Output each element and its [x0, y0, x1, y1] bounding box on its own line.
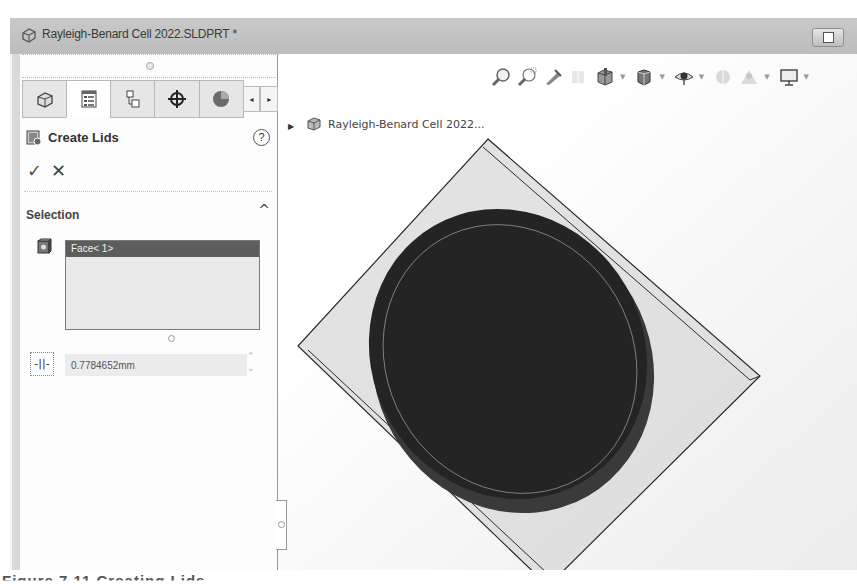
- property-manager-title: Create Lids: [48, 130, 119, 145]
- tab-dimxpert-manager[interactable]: [154, 80, 199, 118]
- divider: [24, 191, 272, 192]
- property-list-icon: [79, 89, 99, 109]
- tab-display-manager[interactable]: [199, 80, 244, 118]
- configuration-icon: [123, 89, 143, 109]
- part-icon: [20, 26, 38, 44]
- face-selection-icon: [37, 238, 52, 255]
- collapse-chevron-icon[interactable]: ^: [258, 202, 270, 218]
- property-manager-header: Create Lids ?: [26, 128, 276, 152]
- window-title: Rayleigh-Benard Cell 2022.SLDPRT *: [42, 27, 237, 41]
- title-bar: Rayleigh-Benard Cell 2022.SLDPRT *: [10, 18, 857, 54]
- manager-tabs: ◂ ▸: [22, 80, 278, 118]
- thickness-increment-button[interactable]: ⌃: [247, 351, 255, 361]
- appearance-sphere-icon: [210, 88, 232, 110]
- help-button[interactable]: ?: [253, 129, 270, 146]
- property-manager-panel: ◂ ▸ Create Lids ? ✓ ✕ Selection ^ Face: [12, 54, 278, 570]
- face-selection-list[interactable]: Face< 1>: [65, 240, 260, 330]
- thickness-decrement-button[interactable]: ⌄: [247, 363, 255, 373]
- selection-section-title: Selection: [26, 208, 79, 222]
- thickness-input[interactable]: [65, 354, 247, 376]
- selection-list-item[interactable]: Face< 1>: [66, 241, 259, 257]
- tabs-scroll-right-button[interactable]: ▸: [260, 86, 278, 112]
- panel-edge: [12, 54, 20, 570]
- grip-handle-icon: [146, 62, 154, 70]
- selection-section-header[interactable]: Selection ^: [26, 204, 274, 224]
- restore-window-icon: [823, 32, 834, 43]
- solidworks-window: Rayleigh-Benard Cell 2022.SLDPRT *: [10, 18, 857, 570]
- crosshair-icon: [166, 88, 188, 110]
- thickness-icon: -||-: [30, 352, 54, 376]
- ok-button[interactable]: ✓: [27, 160, 42, 181]
- graphics-area[interactable]: ▼ ▼ ▼ ▼ ▼ ▶ Rayleigh-Be: [278, 54, 857, 570]
- restore-window-button[interactable]: [812, 28, 844, 47]
- tabs-scroll-left-button[interactable]: ◂: [243, 86, 261, 112]
- create-lids-icon: [26, 130, 42, 146]
- figure-caption: Figure 7.11 Creating Lids: [2, 572, 205, 587]
- cylinder-body: [316, 158, 707, 565]
- panel-grip[interactable]: [22, 54, 276, 78]
- part-tree-icon: [34, 88, 56, 110]
- tab-configuration-manager[interactable]: [110, 80, 155, 118]
- list-resize-handle[interactable]: [168, 335, 175, 342]
- tab-property-manager[interactable]: [66, 80, 111, 118]
- tab-feature-manager[interactable]: [22, 80, 67, 118]
- model-view[interactable]: [278, 54, 857, 570]
- cancel-button[interactable]: ✕: [51, 160, 66, 181]
